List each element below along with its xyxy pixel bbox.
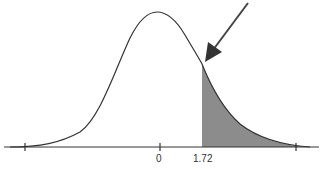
tick-label-zero: 0: [156, 153, 162, 164]
tick-label-critical: 1.72: [193, 153, 212, 164]
arrow-shaft: [213, 3, 248, 50]
arrow-head-icon: [205, 42, 222, 62]
shaded-tail-area: [202, 64, 305, 147]
normal-curve-diagram: [0, 0, 321, 169]
bell-curve: [10, 12, 310, 147]
